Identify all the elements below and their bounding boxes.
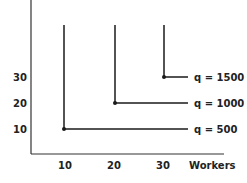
- label-q500: q = 500: [194, 124, 237, 135]
- isoquant-q1000: [113, 25, 188, 105]
- isoquant-q500: [62, 25, 188, 131]
- x-tick-20: 20: [107, 160, 121, 171]
- x-axis-label: Workers: [189, 160, 236, 171]
- y-tick-30: 30: [13, 72, 27, 83]
- x-tick-30: 30: [156, 160, 170, 171]
- y-tick-20: 20: [13, 98, 27, 109]
- y-tick-10: 10: [13, 124, 27, 135]
- isoquant-chart: q = 1500 q = 1000 q = 500 30 20 10 10 20…: [0, 0, 247, 183]
- label-q1500: q = 1500: [194, 72, 244, 83]
- isoquant-q1500: [162, 25, 188, 79]
- label-q1000: q = 1000: [194, 98, 244, 109]
- x-tick-10: 10: [58, 160, 72, 171]
